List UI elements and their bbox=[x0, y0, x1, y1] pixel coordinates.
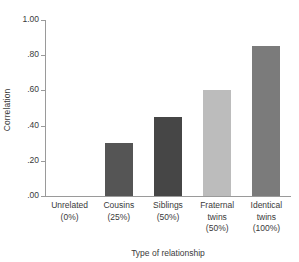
plot-area: .00.20.40.60.801.00 bbox=[45, 20, 291, 196]
category-label-line: Fraternal bbox=[193, 200, 242, 212]
bar-slot bbox=[45, 20, 94, 196]
y-tick-mark bbox=[41, 196, 46, 197]
category-label-line: (0%) bbox=[45, 212, 94, 224]
y-axis-title: Correlation bbox=[0, 62, 14, 158]
y-tick-label: .60 bbox=[27, 84, 39, 94]
bar-slot bbox=[242, 20, 291, 196]
category-label-line: Unrelated bbox=[45, 200, 94, 212]
bar-slot bbox=[193, 20, 242, 196]
category-label: Unrelated(0%) bbox=[45, 200, 94, 223]
y-tick-label: .20 bbox=[27, 155, 39, 165]
y-tick-label: .40 bbox=[27, 120, 39, 130]
category-label: Fraternaltwins(50%) bbox=[193, 200, 242, 235]
y-tick-label: .00 bbox=[27, 190, 39, 200]
category-label-line: twins bbox=[193, 212, 242, 224]
category-label-line: Siblings bbox=[143, 200, 192, 212]
category-label: Cousins(25%) bbox=[94, 200, 143, 223]
bar[interactable] bbox=[105, 143, 133, 196]
bar[interactable] bbox=[154, 117, 182, 196]
category-label-line: Identical bbox=[242, 200, 291, 212]
x-axis-line bbox=[45, 196, 291, 197]
category-label-line: (50%) bbox=[143, 212, 192, 224]
category-label-line: (25%) bbox=[94, 212, 143, 224]
bar-chart-figure: Correlation .00.20.40.60.801.00 Unrelate… bbox=[0, 0, 299, 262]
y-tick-label: .80 bbox=[27, 49, 39, 59]
category-label: Identicaltwins(100%) bbox=[242, 200, 291, 235]
bar[interactable] bbox=[252, 46, 280, 196]
category-label: Siblings(50%) bbox=[143, 200, 192, 223]
category-label-line: twins bbox=[242, 212, 291, 224]
bar-slot bbox=[94, 20, 143, 196]
category-label-line: (100%) bbox=[242, 223, 291, 235]
category-label-line: Cousins bbox=[94, 200, 143, 212]
bar[interactable] bbox=[203, 90, 231, 196]
y-tick-label: 1.00 bbox=[22, 14, 39, 24]
y-axis-title-text: Correlation bbox=[2, 89, 12, 132]
x-axis-title: Type of relationship bbox=[45, 248, 291, 258]
category-label-line: (50%) bbox=[193, 223, 242, 235]
bar-slot bbox=[143, 20, 192, 196]
